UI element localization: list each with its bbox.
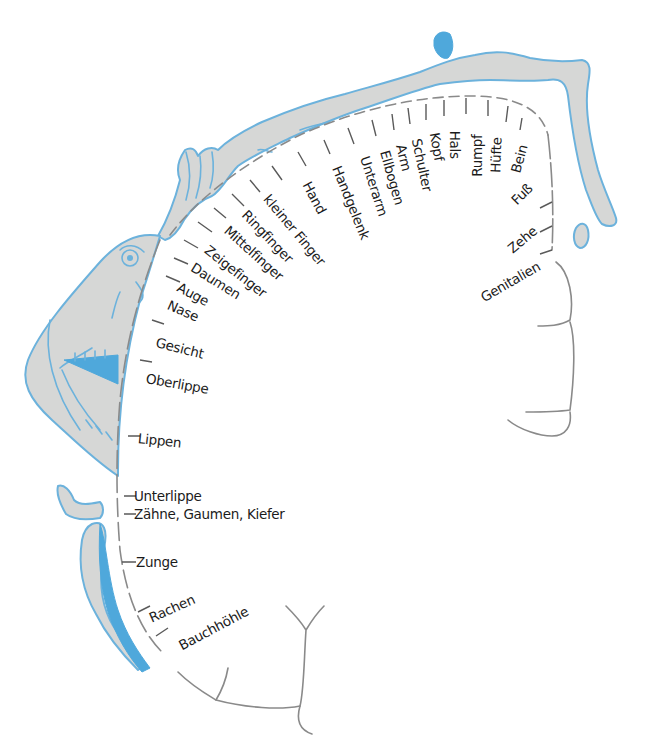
label-zaehne-gaumen-kiefer: Zähne, Gaumen, Kiefer [134, 508, 285, 522]
label-unterlippe: Unterlippe [134, 490, 202, 504]
label-kopf: Kopf [427, 132, 445, 162]
label-huefte: Hüfte [489, 137, 504, 173]
label-hals: Hals [447, 131, 461, 159]
homunculus-body [25, 32, 616, 672]
label-rumpf: Rumpf [471, 134, 485, 176]
label-zunge: Zunge [136, 556, 178, 570]
homunculus-diagram: Genitalien Zehe Fuß Bein Hüfte Rumpf Hal… [0, 0, 647, 739]
homunculus-illustration [0, 0, 647, 739]
